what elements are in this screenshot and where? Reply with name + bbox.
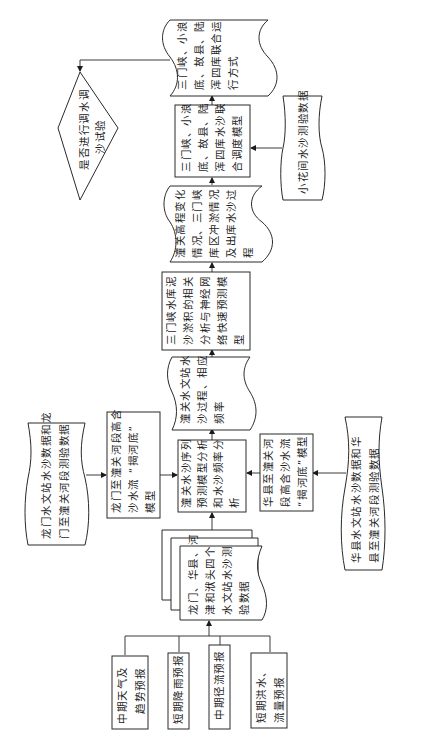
document-shape <box>25 423 89 545</box>
joint-operation-line-4: 行方式 <box>227 55 239 90</box>
forecast-flood-line-2: 流量预报 <box>273 677 285 723</box>
series-line-2: 预测模型分析 <box>196 438 208 508</box>
sanmenxia-line-5: 型 <box>233 333 245 345</box>
longmen-model-line-2: 沙水流 “揭河底” <box>127 424 139 513</box>
forecast-runoff-box: 中期径流预报 <box>209 645 230 729</box>
huaxian-model-line-3: “揭河底”模型 <box>296 435 308 507</box>
four-station-line-3: 水文站水沙测 <box>221 545 233 615</box>
forecast-flood-box: 短期洪水、 流量预报 <box>251 653 287 728</box>
longmen-data-line-1: 龙门水文站水沙数据和龙 <box>40 411 52 539</box>
tongguan-series-box: 潼关水沙序列 预测模型分析 和水沙频率分 析 <box>178 438 246 512</box>
four-station-line-1: 龙门、华县、河 <box>187 534 199 615</box>
xiaohua-data-line-1: 小花间水沙测验数据 <box>297 90 309 194</box>
forecast-weather-box: 中期天气及 趋势预报 <box>112 656 148 729</box>
four-station-multidocument: 龙门、华县、河 津和洑头四个 水文站水沙测 验数据 <box>162 530 267 620</box>
joint-operation-line-1: 三门峡、小浪 <box>176 20 188 90</box>
series-line-3: 和水沙频率分 <box>212 438 224 508</box>
four-station-line-2: 津和洑头四个 <box>204 545 216 615</box>
elevation-line-2: 情况、三门峡 <box>191 188 203 258</box>
huaxian-data-line-2: 县至潼关河段测验数据 <box>368 447 380 563</box>
forecast-runoff-line-1: 中期径流预报 <box>213 650 225 720</box>
four-station-line-4: 验数据 <box>238 580 250 615</box>
process-line-1: 潼关水文站水 <box>179 354 191 424</box>
series-line-4: 析 <box>228 496 240 508</box>
forecast-flood-line-1: 短期洪水、 <box>255 665 267 723</box>
joint-model-line-4: 合调度模型 <box>231 114 243 172</box>
huaxian-model-box: 华县至潼关河 段高含沙水流 “揭河底”模型 <box>260 434 313 511</box>
joint-operation-document: 三门峡、小浪 底、故县、陆 浑四库联合运 行方式 <box>163 20 278 96</box>
decision-line-1: 是否进行调水调 <box>78 89 90 170</box>
sanmenxia-model-box: 三门峡水库泥 沙淤积的相关 分析与神经网 络快速预测模 型 <box>162 272 250 350</box>
joint-operation-line-3: 浑四库联合运 <box>210 20 222 90</box>
elevation-line-5: 程 <box>242 246 254 258</box>
forecast-weather-line-1: 中期天气及 <box>116 666 128 724</box>
joint-model-line-1: 三门峡、小浪 <box>180 102 192 172</box>
sanmenxia-line-2: 沙淤积的相关 <box>182 275 194 345</box>
forecast-weather-line-2: 趋势预报 <box>134 668 146 714</box>
elevation-line-1: 潼关高程变化 <box>174 188 186 258</box>
huaxian-data-document: 华县水文站水沙数据和华 县至潼关河段测验数据 <box>341 417 385 570</box>
edge-forecast-bus <box>125 636 270 655</box>
sanmenxia-line-4: 络快速预测模 <box>216 275 228 345</box>
longmen-data-line-2: 门至潼关河段测验数据 <box>58 423 70 539</box>
forecast-rain-line-1: 短期降雨预报 <box>172 654 184 724</box>
joint-model-line-3: 浑四库水沙联 <box>214 102 226 172</box>
decision-node: 是否进行调水调 沙试验 <box>58 72 118 200</box>
longmen-model-line-3: 模型 <box>144 490 156 513</box>
process-line-3: 频率 <box>213 401 225 424</box>
edge-operation-to-decision <box>80 60 170 71</box>
tongguan-process-document: 潼关水文站水 沙过程、相应 频率 <box>168 354 257 430</box>
longmen-model-box: 龙门至潼关河段高含 沙水流 “揭河底” 模型 <box>107 409 160 518</box>
tongguan-elevation-document: 潼关高程变化 情况、三门峡 库区冲淤情况 及出库水沙过 程 <box>164 186 273 262</box>
longmen-data-document: 龙门水文站水沙数据和龙 门至潼关河段测验数据 <box>25 411 89 545</box>
sanmenxia-line-1: 三门峡水库泥 <box>165 275 177 345</box>
forecast-rain-box: 短期降雨预报 <box>168 653 189 729</box>
elevation-line-4: 及出库水沙过 <box>225 188 237 258</box>
huaxian-model-line-1: 华县至潼关河 <box>262 437 274 507</box>
elevation-line-3: 库区冲淤情况 <box>208 188 220 258</box>
huaxian-model-line-2: 段高含沙水流 <box>279 437 291 507</box>
joint-operation-line-2: 底、故县、陆 <box>193 20 205 90</box>
series-line-1: 潼关水沙序列 <box>180 438 192 508</box>
process-line-2: 沙过程、相应 <box>196 354 208 424</box>
joint-model-box: 三门峡、小浪 底、故县、陆 浑四库水沙联 合调度模型 <box>175 102 250 177</box>
xiaohua-data-document: 小花间水沙测验数据 <box>281 90 325 200</box>
longmen-model-line-1: 龙门至潼关河段高含 <box>110 409 122 513</box>
decision-line-2: 沙试验 <box>94 119 106 154</box>
joint-model-line-2: 底、故县、陆 <box>197 102 209 172</box>
huaxian-data-line-1: 华县水文站水沙数据和华 <box>350 435 362 563</box>
flowchart-canvas: 是否进行调水调 沙试验 三门峡、小浪 底、故县、陆 浑四库联合运 行方式 三门峡… <box>0 0 430 743</box>
sanmenxia-line-3: 分析与神经网 <box>199 275 211 345</box>
